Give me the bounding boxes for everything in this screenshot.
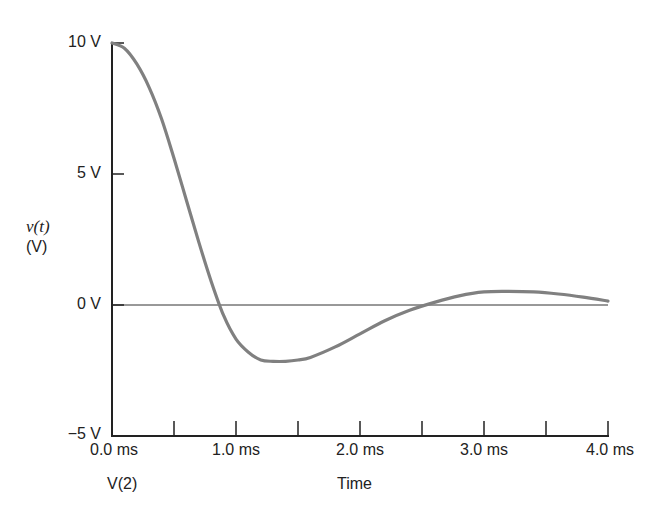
y-tick-label-10: 10 V (41, 33, 101, 51)
x-tick-label-0: 0.0 ms (90, 441, 138, 459)
voltage-curve (112, 43, 608, 361)
y-ticks (112, 43, 124, 305)
y-axis-label-var: v(t) (26, 217, 50, 237)
trace-label: V(2) (107, 475, 137, 493)
x-ticks (174, 421, 608, 436)
x-tick-label-3: 3.0 ms (460, 441, 508, 459)
y-axis-label-unit: (V) (26, 238, 47, 256)
x-axis-label: Time (337, 475, 372, 493)
x-tick-label-4: 4.0 ms (586, 441, 634, 459)
y-tick-label-5: 5 V (41, 164, 101, 182)
y-tick-label-0: 0 V (41, 295, 101, 313)
x-tick-label-2: 2.0 ms (336, 441, 384, 459)
x-tick-label-1: 1.0 ms (212, 441, 260, 459)
